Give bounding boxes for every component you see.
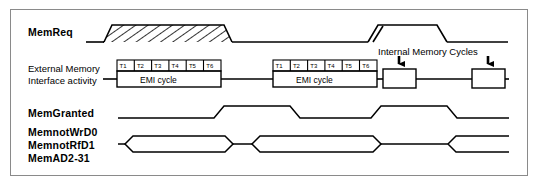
emi-tick-label: T2	[293, 63, 300, 69]
membus-valid-window-3-open	[448, 136, 509, 152]
signal-memgranted-waveform	[118, 106, 509, 118]
signal-label-memgranted: MemGranted	[28, 108, 94, 119]
emi-tick-label: T2	[137, 63, 144, 69]
memgranted-trace	[118, 106, 509, 118]
emi-tick-label: T3	[310, 63, 317, 69]
emi-tick-label: T1	[276, 63, 283, 69]
emi-tick-label: T4	[172, 63, 179, 69]
memreq-pulse-2-edge-inner	[373, 26, 383, 42]
emi-tick-label: T6	[362, 63, 369, 69]
annotation-internal-memory-cycles: Internal Memory Cycles	[378, 47, 478, 57]
internal-cycle-box-1	[383, 69, 416, 88]
emi-tick-label: T6	[206, 63, 213, 69]
signal-label-memad2-31: MemAD2-31	[28, 153, 90, 164]
emi-cycle-2-caption: EMI cycle	[296, 76, 333, 85]
memreq-pulse-2-outline	[368, 25, 447, 42]
signal-label-external-memory: External Memory	[28, 64, 100, 74]
emi-tick-label: T3	[154, 63, 161, 69]
internal-memory-cycle-arrows	[399, 56, 488, 64]
signal-membus-waveform	[118, 136, 509, 152]
signal-label-memnotrfd1: MemnotRfD1	[28, 140, 95, 151]
signal-label-interface-activity: Interface activity	[28, 76, 97, 86]
membus-valid-window-2	[252, 136, 381, 152]
emi-tick-label: T5	[345, 63, 352, 69]
membus-valid-window-1	[125, 136, 233, 152]
emi-tick-label: T5	[189, 63, 196, 69]
signal-memreq-waveform	[86, 25, 508, 42]
signal-label-memnotwrd0: MemnotWrD0	[28, 127, 97, 138]
internal-cycle-box-2	[472, 69, 505, 88]
emi-tick-label: T4	[328, 63, 335, 69]
emi-cycle-1-caption: EMI cycle	[140, 76, 177, 85]
emi-tick-label: T1	[120, 63, 127, 69]
memreq-pulse-1-fill	[104, 25, 232, 42]
timing-diagram: MemReq External Memory Interface activit…	[0, 0, 538, 187]
signal-label-memreq: MemReq	[28, 27, 73, 38]
